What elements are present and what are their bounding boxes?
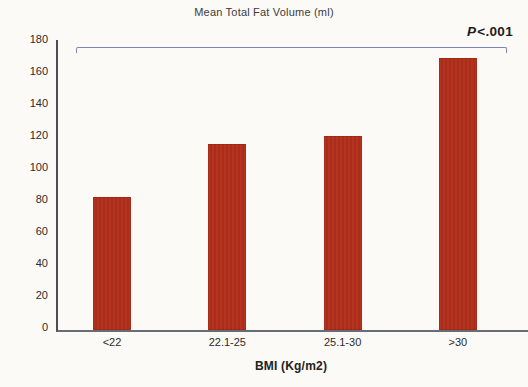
p-value-annotation: P<.001 (467, 24, 513, 39)
bar-25.1-30 (324, 136, 362, 330)
chart-title: Mean Total Fat Volume (ml) (0, 6, 528, 18)
y-tick-label: 140 (8, 96, 48, 110)
y-tick-label: 160 (8, 64, 48, 78)
x-tick-label: 22.1-25 (187, 336, 267, 348)
x-axis-title: BMI (Kg/m2) (56, 359, 526, 373)
y-tick-label: 0 (8, 320, 48, 334)
y-tick-label: 120 (8, 128, 48, 142)
p-value-text: <.001 (477, 24, 513, 39)
x-tick-label: 25.1-30 (303, 336, 383, 348)
bar-22.1-25 (208, 144, 246, 330)
y-tick-label: 100 (8, 160, 48, 174)
bar->30 (439, 58, 477, 330)
plot-area (56, 40, 528, 332)
p-value-symbol: P (467, 24, 477, 39)
x-tick-label: <22 (72, 336, 152, 348)
y-tick-label: 80 (8, 192, 48, 206)
y-tick-label: 40 (8, 256, 48, 270)
bar-<22 (93, 197, 131, 330)
y-tick-label: 60 (8, 224, 48, 238)
bar-chart-figure: Mean Total Fat Volume (ml) P<.001 020406… (0, 0, 528, 387)
y-tick-label: 180 (8, 32, 48, 46)
y-tick-label: 20 (8, 288, 48, 302)
x-tick-label: >30 (418, 336, 498, 348)
